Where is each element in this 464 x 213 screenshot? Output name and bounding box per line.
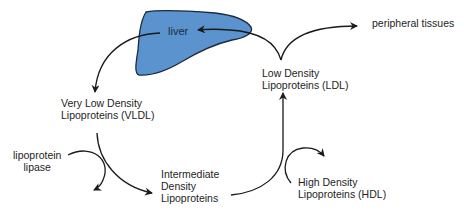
arrow-ldl-to-peripheral — [281, 26, 357, 60]
lipase-line2: lipase — [13, 161, 61, 173]
peripheral-tissues-text: peripheral tissues — [372, 17, 454, 29]
ldl-line2: Lipoproteins (LDL) — [262, 79, 348, 91]
liver-label: liver — [168, 25, 188, 37]
idl-label: Intermediate Density Lipoproteins — [161, 168, 219, 204]
arrow-idl-to-ldl — [231, 93, 283, 195]
peripheral-tissues-label: peripheral tissues — [372, 17, 454, 29]
vldl-line1: Very Low Density — [61, 97, 154, 109]
liver-text: liver — [168, 25, 188, 37]
lipase-line1: lipoprotein — [13, 149, 61, 161]
vldl-label: Very Low Density Lipoproteins (VLDL) — [61, 97, 154, 121]
arrow-vldl-to-idl — [97, 133, 152, 193]
ldl-line1: Low Density — [262, 67, 348, 79]
hdl-label: High Density Lipoproteins (HDL) — [298, 176, 386, 200]
hdl-line2: Lipoproteins (HDL) — [298, 188, 386, 200]
idl-line1: Intermediate — [161, 168, 219, 180]
lipoprotein-lipase-label: lipoprotein lipase — [13, 149, 61, 173]
idl-line3: Lipoproteins — [161, 192, 219, 204]
arrow-lipoprotein-lipase — [68, 151, 105, 190]
ldl-label: Low Density Lipoproteins (LDL) — [262, 67, 348, 91]
liver-shape — [136, 10, 252, 75]
idl-line2: Density — [161, 180, 219, 192]
vldl-line2: Lipoproteins (VLDL) — [61, 109, 154, 121]
hdl-line1: High Density — [298, 176, 386, 188]
